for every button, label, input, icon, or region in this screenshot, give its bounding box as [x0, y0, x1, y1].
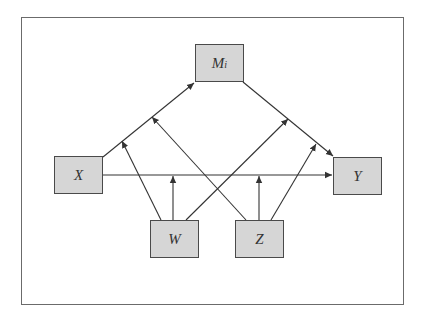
node-y-label: Y [353, 168, 361, 185]
node-z: Z [235, 220, 284, 258]
node-m: Mi [195, 44, 244, 82]
node-m-subscript: i [224, 59, 227, 70]
node-w-label: W [168, 231, 181, 248]
edge-w-to-xm [122, 141, 161, 220]
node-m-label: M [212, 55, 225, 72]
node-w: W [150, 220, 199, 258]
node-x-label: X [74, 167, 83, 184]
node-z-label: Z [255, 231, 263, 248]
node-x: X [54, 156, 103, 194]
node-y: Y [333, 157, 382, 195]
edge-z-to-xm [152, 117, 246, 220]
edge-x-to-m [103, 83, 194, 157]
edge-z-to-my [271, 144, 316, 220]
edge-w-to-my [186, 119, 288, 220]
